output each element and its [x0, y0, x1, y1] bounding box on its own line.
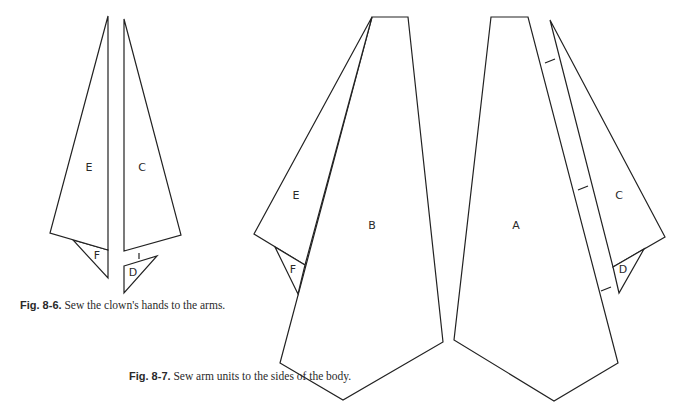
- label-c: C: [138, 161, 146, 174]
- fig-8-7-drawing: E F B A C D: [254, 17, 665, 401]
- label-c: C: [615, 189, 623, 202]
- figure-caption-8-7: Fig. 8-7. Sew arm units to the sides of …: [129, 369, 369, 383]
- label-f: F: [94, 249, 100, 262]
- seam-mark: [545, 59, 555, 63]
- seam-mark: [578, 186, 588, 190]
- label-e: E: [293, 189, 300, 202]
- pattern-diagram: E C F D E F B A C D: [0, 0, 680, 409]
- label-d: D: [619, 263, 627, 276]
- figure-caption-8-6: Fig. 8-6. Sew the clown's hands to the a…: [20, 298, 240, 312]
- label-b: B: [368, 219, 376, 232]
- label-e: E: [86, 161, 93, 174]
- label-a: A: [512, 219, 520, 232]
- seam-mark: [601, 287, 611, 291]
- caption-label: Fig. 8-6.: [20, 299, 62, 311]
- fig-8-6-drawing: E C F D: [50, 16, 181, 293]
- piece-e-left-arm: [50, 16, 108, 250]
- label-d: D: [129, 266, 137, 279]
- piece-a-body-right: [454, 17, 618, 401]
- caption-text: Sew arm units to the sides of the body.: [171, 370, 352, 382]
- caption-text: Sew the clown's hands to the arms.: [62, 299, 226, 311]
- caption-label: Fig. 8-7.: [129, 370, 171, 382]
- label-f: F: [290, 263, 296, 276]
- piece-c-right-arm: [124, 19, 181, 251]
